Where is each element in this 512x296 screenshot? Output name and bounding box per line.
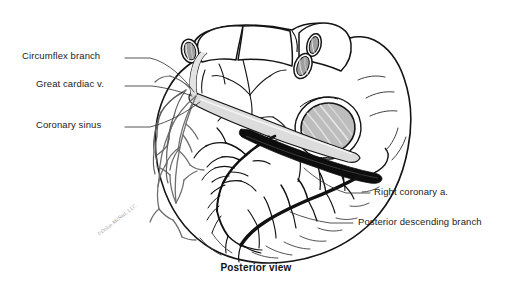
- anatomy-figure: Circumflex branch Great cardiac v. Coron…: [0, 0, 512, 296]
- heart-diagram: [0, 0, 512, 296]
- great-vessel-stump-mid: [238, 26, 292, 66]
- label-posterior-descending-branch: Posterior descending branch: [358, 217, 482, 227]
- label-circumflex-branch: Circumflex branch: [22, 51, 100, 61]
- label-right-coronary-artery: Right coronary a.: [374, 187, 448, 197]
- figure-caption: Posterior view: [0, 262, 512, 273]
- label-great-cardiac-vein: Great cardiac v.: [36, 79, 104, 89]
- label-coronary-sinus: Coronary sinus: [36, 120, 101, 130]
- great-vessel-stump-left: [197, 26, 243, 62]
